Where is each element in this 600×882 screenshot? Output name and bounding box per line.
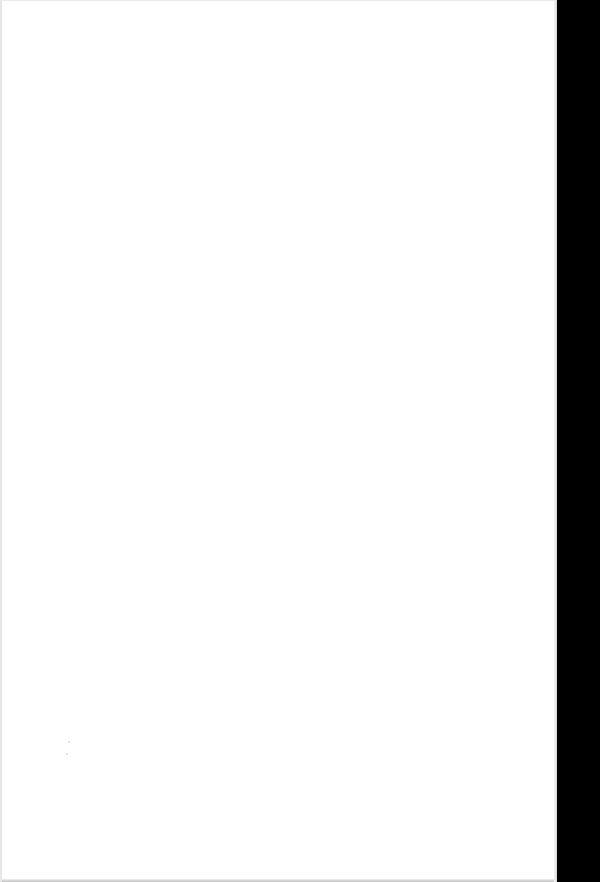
scanned-document bbox=[0, 0, 600, 882]
scanner-black-margin bbox=[557, 0, 600, 882]
scan-speck bbox=[68, 741, 70, 743]
blank-page bbox=[0, 0, 557, 882]
scan-speck bbox=[66, 753, 68, 755]
